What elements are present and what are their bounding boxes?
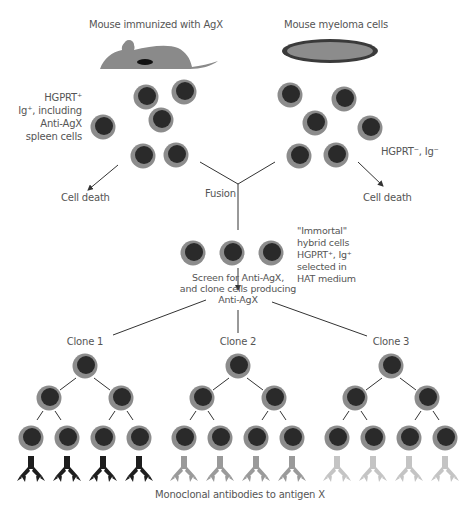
- clone-cell: [127, 426, 152, 451]
- antibody-icon: [323, 456, 351, 482]
- label-clone-2: Clone 2: [208, 336, 268, 347]
- line-screen-clone1: [113, 300, 206, 335]
- clone-2-tree: [170, 354, 306, 483]
- clone-cell: [379, 354, 404, 379]
- clone-3-tree: [323, 354, 459, 483]
- label-clone-1: Clone 1: [55, 336, 115, 347]
- antibody-icon: [431, 456, 459, 482]
- antibody-icon: [242, 456, 270, 482]
- myeloma-cell: [303, 111, 328, 136]
- label-fusion: Fusion: [205, 188, 236, 199]
- antibody-icon: [206, 456, 234, 482]
- line-spleen-fusion: [200, 162, 238, 184]
- line-screen-clone3: [272, 302, 367, 336]
- spleen-cell: [131, 144, 156, 169]
- clone-cell: [244, 426, 269, 451]
- myeloma-cell: [287, 144, 312, 169]
- clone-cell: [55, 426, 80, 451]
- clone-cell: [226, 354, 251, 379]
- hybrid-cell: [181, 241, 206, 266]
- clone-cell: [37, 386, 62, 411]
- clone-cell: [415, 386, 440, 411]
- clone-cell: [433, 426, 458, 451]
- myeloma-dish-icon: [282, 39, 378, 63]
- spleen-cell: [149, 108, 174, 133]
- clone-cell: [172, 426, 197, 451]
- antibody-icon: [17, 456, 45, 482]
- label-cell-death-right: Cell death: [363, 192, 412, 203]
- antibody-icon: [395, 456, 423, 482]
- clone-cell: [262, 386, 287, 411]
- antibody-icon: [89, 456, 117, 482]
- label-mouse-immunized: Mouse immunized with AgX: [89, 19, 223, 30]
- antibody-icon: [278, 456, 306, 482]
- myeloma-cell: [332, 87, 357, 112]
- hybrid-cell: [220, 241, 245, 266]
- line-myeloma-fusion: [238, 162, 275, 184]
- myeloma-cell: [324, 143, 349, 168]
- spleen-cell: [172, 80, 197, 105]
- clone-cell: [190, 386, 215, 411]
- clone-cell: [73, 354, 98, 379]
- label-screen: Screen for Anti-AgX, and clone cells pro…: [153, 272, 323, 305]
- label-spleen-cells: HGPRT⁺ Ig⁺, including Anti-AgX spleen ce…: [14, 91, 82, 143]
- label-myeloma: Mouse myeloma cells: [284, 19, 388, 30]
- clone-cell: [19, 426, 44, 451]
- spleen-cell: [91, 115, 116, 140]
- mouse-icon: [100, 40, 218, 69]
- arrow-spleen-death: [88, 165, 118, 190]
- clone-cell: [361, 426, 386, 451]
- myeloma-cell: [278, 83, 303, 108]
- arrow-myeloma-death: [358, 162, 383, 186]
- clone-cell: [208, 426, 233, 451]
- label-clone-3: Clone 3: [361, 336, 421, 347]
- antibody-icon: [359, 456, 387, 482]
- clone-cell: [91, 426, 116, 451]
- label-caption: Monoclonal antibodies to antigen X: [130, 489, 350, 500]
- label-cell-death-left: Cell death: [61, 192, 110, 203]
- clone-cell: [325, 426, 350, 451]
- clone-cell: [343, 386, 368, 411]
- myeloma-cell: [358, 116, 383, 141]
- antibody-icon: [170, 456, 198, 482]
- antibody-icon: [125, 456, 153, 482]
- hybrid-cell: [259, 241, 284, 266]
- clone-cell: [280, 426, 305, 451]
- clone-1-tree: [17, 354, 153, 483]
- clone-cell: [397, 426, 422, 451]
- spleen-cell: [134, 85, 159, 110]
- label-myeloma-phenotype: HGPRT⁻, Ig⁻: [381, 146, 439, 157]
- spleen-cell: [164, 143, 189, 168]
- clone-cell: [109, 386, 134, 411]
- hybridoma-diagram: [0, 0, 474, 513]
- antibody-icon: [53, 456, 81, 482]
